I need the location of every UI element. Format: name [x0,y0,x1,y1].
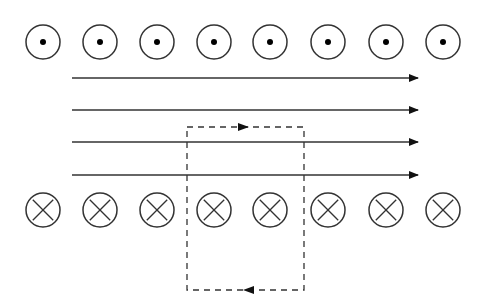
wire-into-page-icon [83,193,117,227]
wire-out-of-page-icon [369,25,403,59]
wire-out-of-page-icon [426,25,460,59]
wire-into-page-icon [426,193,460,227]
wire-out-of-page-icon [26,25,60,59]
diagram-canvas [0,0,484,306]
loop-direction-left-arrow-icon [243,286,254,294]
wire-into-page-icon [311,193,345,227]
wire-out-of-page-icon [197,25,231,59]
ampere-law-diagram [0,0,484,306]
wire-out-of-page-icon [83,25,117,59]
wire-into-page-icon [369,193,403,227]
bottom-row-wires-into-page [26,193,460,227]
wire-into-page-icon [26,193,60,227]
loop-direction-right-arrow-icon [238,123,249,131]
wire-into-page-icon [140,193,174,227]
wire-out-of-page-icon [311,25,345,59]
wire-out-of-page-icon [140,25,174,59]
top-row-wires-out-of-page [26,25,460,59]
wire-into-page-icon [253,193,287,227]
wire-out-of-page-icon [253,25,287,59]
wire-into-page-icon [197,193,231,227]
